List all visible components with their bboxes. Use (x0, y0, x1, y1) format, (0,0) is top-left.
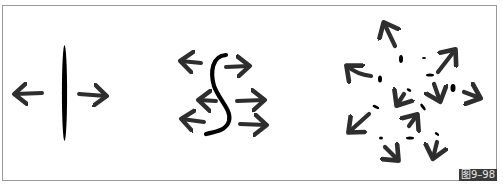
arrow-right-icon (237, 100, 264, 101)
arrow-left-icon (15, 93, 42, 94)
arrow-left-icon (347, 66, 371, 76)
arrow-down-left-icon (349, 114, 369, 132)
arrow-down-icon (433, 142, 437, 158)
arrow-down-icon (434, 84, 440, 101)
arrow-left-icon (199, 100, 216, 101)
vertical-line-icon (62, 45, 67, 141)
panel-straight-line (15, 45, 106, 141)
arrow-right-icon (464, 92, 480, 98)
arrow-right-icon (226, 66, 249, 67)
panel-scattered-dots (347, 23, 480, 160)
arrow-right-icon (79, 94, 106, 96)
arrow-left-icon (181, 61, 201, 63)
arrows-group (347, 23, 480, 160)
arrow-right-icon (240, 124, 266, 125)
arrow-down-left-icon (397, 94, 404, 105)
arrow-up-right-icon (438, 50, 455, 72)
arrow-up-right-icon (409, 115, 417, 126)
figure-illustration (0, 0, 503, 185)
arrow-left-icon (182, 119, 204, 122)
arrow-up-left-icon (384, 23, 395, 46)
figure-caption: 图9–98 (459, 169, 497, 181)
arrow-down-right-icon (385, 147, 398, 160)
panel-s-curve (181, 55, 266, 134)
